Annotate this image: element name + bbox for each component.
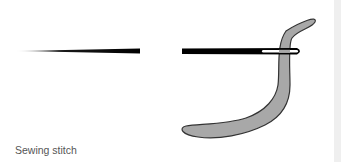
sewing-stitch-diagram xyxy=(0,0,341,162)
thread-icon xyxy=(182,19,315,138)
caption: Sewing stitch xyxy=(15,144,77,156)
left-needle-icon xyxy=(15,49,140,54)
right-needle-icon xyxy=(182,48,300,55)
